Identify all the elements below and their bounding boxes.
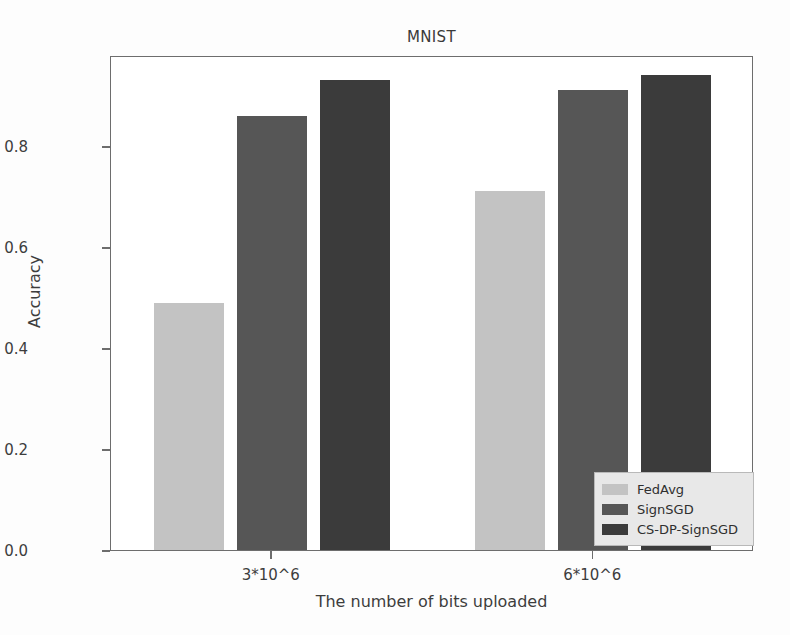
chart-title: MNIST <box>110 28 753 46</box>
legend-swatch-icon <box>602 524 628 535</box>
y-tick-label: 0.4 <box>0 340 28 358</box>
bar <box>320 80 390 550</box>
x-tick-label: 6*10^6 <box>502 566 682 584</box>
y-tick-label: 0.8 <box>0 138 28 156</box>
bar <box>237 116 307 550</box>
y-tick-mark <box>102 550 110 552</box>
y-tick-label: 0.6 <box>0 239 28 257</box>
bar <box>475 191 545 550</box>
y-tick-label: 0.0 <box>0 542 28 560</box>
y-tick-mark <box>102 449 110 451</box>
legend-item: CS-DP-SignSGD <box>602 519 746 539</box>
x-tick-label: 3*10^6 <box>181 566 361 584</box>
legend-swatch-icon <box>602 504 628 515</box>
legend-label: FedAvg <box>637 482 684 497</box>
x-tick-mark <box>592 551 594 559</box>
chart-legend: FedAvgSignSGDCS-DP-SignSGD <box>594 472 754 546</box>
y-tick-mark <box>102 146 110 148</box>
bar <box>154 303 224 551</box>
legend-label: SignSGD <box>637 502 694 517</box>
legend-label: CS-DP-SignSGD <box>637 522 738 537</box>
chart-figure: MNIST Accuracy 0.00.20.40.60.8 3*10^66*1… <box>0 0 790 635</box>
x-tick-mark <box>270 551 272 559</box>
legend-item: SignSGD <box>602 499 746 519</box>
y-tick-label: 0.2 <box>0 441 28 459</box>
y-tick-mark <box>102 348 110 350</box>
legend-item: FedAvg <box>602 479 746 499</box>
legend-swatch-icon <box>602 484 628 495</box>
x-axis-label: The number of bits uploaded <box>110 592 753 611</box>
y-tick-mark <box>102 247 110 249</box>
